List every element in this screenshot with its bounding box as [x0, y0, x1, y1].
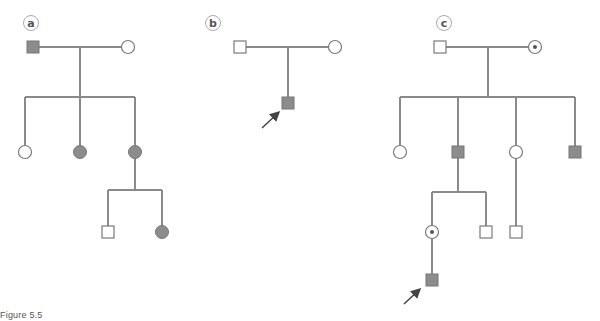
c-grandson-2-unaffected-square [510, 226, 522, 238]
a-daughter-2-affected-circle [74, 146, 87, 159]
a-father-affected-square [27, 41, 39, 53]
c-grandson-1-unaffected-square [480, 226, 492, 238]
panel-label-c: c [437, 16, 452, 31]
a-mother-unaffected-circle [122, 41, 135, 54]
c-proband-arrow-icon [404, 290, 419, 304]
pedigree-figure: a b [0, 0, 600, 321]
panel-label-a: a [24, 16, 39, 31]
c-mother-carrier-circle [529, 41, 542, 54]
pedigree-b: b [206, 16, 342, 129]
c-daughter-1-unaffected-circle [394, 146, 407, 159]
pedigree-b-lines [246, 47, 329, 97]
svg-text:a: a [27, 17, 34, 30]
c-daughter-2-unaffected-circle [510, 146, 523, 159]
c-son-2-affected-square [569, 146, 581, 158]
a-granddaughter-affected-circle [156, 226, 169, 239]
a-grandson-unaffected-square [102, 226, 114, 238]
pedigree-a-lines [25, 47, 162, 226]
c-granddaughter-carrier-circle [426, 226, 439, 239]
a-daughter-1-unaffected-circle [19, 146, 32, 159]
c-son-1-affected-square [452, 146, 464, 158]
svg-text:c: c [441, 17, 448, 30]
b-father-unaffected-square [234, 41, 246, 53]
pedigree-c: c [394, 16, 582, 305]
c-father-unaffected-square [434, 41, 446, 53]
c-great-grandson-affected-proband-square [426, 274, 438, 286]
b-mother-unaffected-circle [329, 41, 342, 54]
svg-text:b: b [209, 17, 217, 30]
b-proband-arrow-icon [262, 113, 278, 128]
a-daughter-3-affected-circle [129, 146, 142, 159]
panel-label-b: b [206, 16, 221, 31]
pedigree-a: a [19, 16, 169, 239]
pedigree-c-lines [400, 47, 575, 274]
figure-caption: Figure 5.5 [0, 310, 43, 320]
b-son-affected-proband-square [282, 97, 294, 109]
